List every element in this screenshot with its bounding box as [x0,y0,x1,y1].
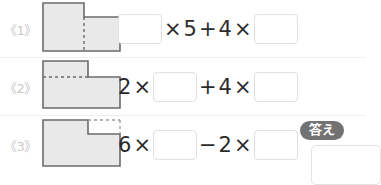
operator-multiply: × [232,19,254,40]
number-literal: 2 [118,77,131,98]
equation-input-box[interactable] [153,130,197,160]
figure-l-shape-tall-left [40,0,125,58]
equation-input-box[interactable] [254,130,298,160]
answer-badge[interactable]: 答え [300,121,344,140]
number-literal: 5 [184,19,197,40]
equation-input-box[interactable] [118,14,162,44]
operator-multiply: × [232,135,254,156]
answer-zone: 答え [298,118,366,174]
operator-multiply: × [232,77,254,98]
row-number-label: 《2》 [4,78,37,97]
operator-plus: + [197,19,219,40]
problem-row: 《2》 2 × + 4 × [0,58,366,116]
problem-row: 《1》 × 5 + 4 × [0,0,366,58]
operator-minus: − [197,135,219,156]
figure-rectangle-with-notch [40,116,125,174]
number-literal: 2 [219,135,232,156]
equation-row-1: × 5 + 4 × [118,0,298,58]
shape-outline [43,61,120,108]
row-number-label: 《1》 [4,20,37,39]
figure-l-shape-top-left-block [40,58,125,116]
equation-input-box[interactable] [254,72,298,102]
operator-multiply: × [131,135,153,156]
operator-plus: + [197,77,219,98]
equation-input-box[interactable] [254,14,298,44]
answer-panel[interactable] [311,145,381,185]
operator-multiply: × [162,19,184,40]
shape-outline [43,3,120,51]
equation-row-2: 2 × + 4 × [118,58,298,116]
row-number-label: 《3》 [4,136,37,155]
shape-outline [43,120,120,166]
equation-row-3: 6 × − 2 × [118,116,298,174]
operator-multiply: × [131,77,153,98]
equation-input-box[interactable] [153,72,197,102]
number-literal: 6 [118,135,131,156]
number-literal: 4 [219,19,232,40]
number-literal: 4 [219,77,232,98]
